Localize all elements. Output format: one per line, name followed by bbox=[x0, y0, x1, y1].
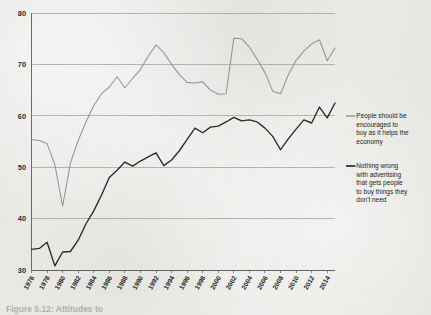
x-tick-2008: 2008 bbox=[271, 274, 285, 290]
y-tick-40: 40 bbox=[18, 214, 26, 223]
x-tick-2010: 2010 bbox=[287, 274, 301, 290]
y-tick-60: 60 bbox=[18, 112, 26, 121]
legend-label-nothing-wrong-advertising: with advertising bbox=[355, 171, 401, 179]
x-tick-1978: 1978 bbox=[38, 274, 52, 290]
legend-label-encouraged-to-buy: encouraged to bbox=[356, 121, 398, 129]
legend-label-encouraged-to-buy: economy bbox=[356, 138, 383, 146]
y-tick-50: 50 bbox=[18, 163, 26, 172]
legend-label-encouraged-to-buy: People should be bbox=[356, 112, 407, 120]
y-tick-80: 80 bbox=[18, 9, 26, 18]
legend-label-nothing-wrong-advertising: don't need bbox=[356, 196, 387, 203]
x-tick-1976: 1976 bbox=[22, 274, 36, 290]
x-tick-2000: 2000 bbox=[209, 274, 223, 290]
y-axis-tick-labels: 304050607080 bbox=[18, 9, 26, 275]
x-tick-1996: 1996 bbox=[178, 274, 192, 290]
x-tick-1980: 1980 bbox=[53, 274, 67, 290]
data-series-group bbox=[32, 38, 336, 266]
x-tick-2012: 2012 bbox=[302, 274, 316, 290]
x-tick-2002: 2002 bbox=[224, 274, 238, 290]
legend-label-nothing-wrong-advertising: to buy things they bbox=[356, 188, 408, 196]
gridlines bbox=[32, 13, 336, 270]
x-tick-1986: 1986 bbox=[100, 274, 114, 290]
x-tick-1992: 1992 bbox=[146, 274, 160, 290]
y-tick-30: 30 bbox=[18, 266, 26, 275]
x-tick-1998: 1998 bbox=[193, 274, 207, 290]
x-tick-2006: 2006 bbox=[255, 274, 269, 290]
axis-lines bbox=[32, 13, 336, 270]
x-axis-tick-labels: 1976197819801982198419861988199019921994… bbox=[22, 270, 331, 291]
chart-legend: People should beencouraged tobuy as it h… bbox=[346, 112, 409, 203]
figure-caption: Figure 5.12: Attitudes to bbox=[6, 303, 266, 315]
legend-label-encouraged-to-buy: buy as it helps the bbox=[356, 129, 409, 137]
legend-label-nothing-wrong-advertising: that gets people bbox=[356, 179, 403, 187]
figure-container: 304050607080 197619781980198219841986198… bbox=[0, 0, 431, 315]
x-tick-2004: 2004 bbox=[240, 274, 254, 290]
series-line-encouraged-to-buy bbox=[32, 38, 336, 206]
x-tick-1994: 1994 bbox=[162, 274, 176, 290]
y-tick-70: 70 bbox=[18, 60, 26, 69]
legend-label-nothing-wrong-advertising: Nothing wrong bbox=[356, 162, 398, 170]
x-tick-1984: 1984 bbox=[84, 274, 98, 290]
x-tick-1988: 1988 bbox=[115, 274, 129, 290]
x-tick-1982: 1982 bbox=[69, 274, 83, 290]
line-chart: 304050607080 197619781980198219841986198… bbox=[0, 0, 431, 315]
x-tick-2014: 2014 bbox=[318, 274, 332, 290]
series-line-nothing-wrong-advertising bbox=[32, 103, 336, 266]
x-tick-1990: 1990 bbox=[131, 274, 145, 290]
